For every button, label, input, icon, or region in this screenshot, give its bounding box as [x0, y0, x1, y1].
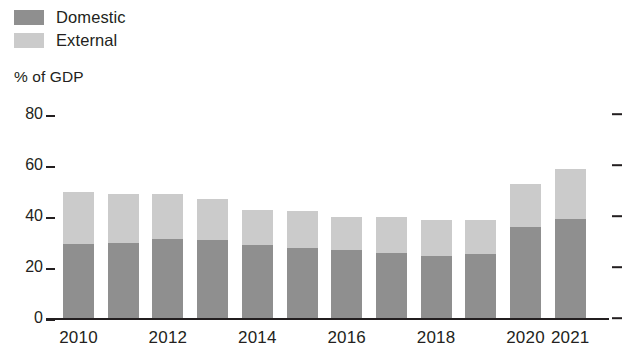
y-tick-20: 20: [0, 258, 55, 276]
bar-segment-external-2012: [152, 194, 183, 239]
bar-segment-domestic-2010: [63, 244, 94, 318]
bar-segment-external-2015: [287, 211, 318, 248]
x-tick-label-2018: 2018: [417, 328, 456, 348]
y-tick-40: 40: [0, 207, 55, 225]
x-tick-label-2010: 2010: [59, 328, 98, 348]
right-tick-mark-0: [612, 317, 622, 319]
x-tick-label-2014: 2014: [238, 328, 277, 348]
bar-segment-external-2016: [331, 217, 362, 250]
x-tick-label-2016: 2016: [327, 328, 366, 348]
bar-2011: [108, 194, 139, 318]
bar-segment-domestic-2020: [510, 227, 541, 318]
y-tick-label: 40: [25, 207, 43, 225]
bar-2021: [555, 169, 586, 318]
bar-segment-domestic-2012: [152, 239, 183, 318]
y-tick-label: 20: [25, 258, 43, 276]
bar-segment-external-2018: [421, 220, 452, 256]
bar-2020: [510, 184, 541, 318]
plot-area: 020406080 2010201220142016201820202021: [0, 0, 630, 363]
bar-segment-external-2013: [197, 199, 228, 240]
bar-segment-domestic-2021: [555, 219, 586, 318]
bar-segment-external-2021: [555, 169, 586, 219]
x-tick-label-2021: 2021: [551, 328, 590, 348]
bar-segment-domestic-2019: [465, 254, 496, 318]
x-tick-label-2020: 2020: [506, 328, 545, 348]
bar-2019: [465, 220, 496, 318]
right-tick-mark-20: [612, 266, 622, 268]
bar-2018: [421, 220, 452, 318]
y-tick-mark: [46, 115, 55, 117]
bar-2017: [376, 217, 407, 318]
bar-segment-external-2019: [465, 220, 496, 254]
bar-segment-domestic-2011: [108, 243, 139, 318]
bar-segment-external-2010: [63, 192, 94, 244]
bar-segment-domestic-2014: [242, 245, 273, 318]
y-tick-label: 80: [25, 105, 43, 123]
bar-segment-domestic-2017: [376, 253, 407, 318]
bar-2010: [63, 192, 94, 318]
y-tick-label: 0: [34, 309, 43, 327]
y-tick-mark: [46, 217, 55, 219]
bar-segment-external-2017: [376, 217, 407, 253]
bar-2014: [242, 210, 273, 318]
right-tick-mark-40: [612, 215, 622, 217]
bar-segment-domestic-2013: [197, 240, 228, 318]
right-tick-mark-60: [612, 164, 622, 166]
y-tick-80: 80: [0, 105, 55, 123]
x-axis-line: [46, 318, 609, 320]
y-tick-mark: [46, 268, 55, 270]
bar-2016: [331, 217, 362, 318]
bar-2013: [197, 199, 228, 318]
y-tick-label: 60: [25, 156, 43, 174]
bar-segment-domestic-2016: [331, 250, 362, 318]
y-tick-60: 60: [0, 156, 55, 174]
y-tick-mark: [46, 166, 55, 168]
bar-2012: [152, 194, 183, 318]
right-tick-mark-80: [612, 113, 622, 115]
stacked-bar-chart: Domestic External % of GDP 020406080 201…: [0, 0, 630, 363]
bar-segment-external-2014: [242, 210, 273, 246]
bar-segment-domestic-2018: [421, 256, 452, 318]
bar-2015: [287, 211, 318, 318]
bar-segment-external-2020: [510, 184, 541, 227]
bar-segment-external-2011: [108, 194, 139, 242]
bar-segment-domestic-2015: [287, 248, 318, 318]
x-tick-label-2012: 2012: [149, 328, 188, 348]
